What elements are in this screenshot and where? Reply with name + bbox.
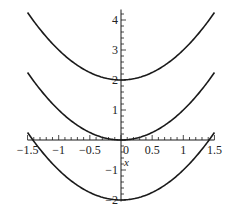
y-tick-label: 3 <box>112 43 118 57</box>
x-tick-label: −0.5 <box>79 143 101 157</box>
x-tick-label: 1.5 <box>207 143 222 157</box>
parabola-family-plot: −1.5−1−0.500.511.5−2−11234x <box>0 0 231 220</box>
x-axis-label: x <box>123 156 129 168</box>
y-tick-label: 2 <box>112 73 118 87</box>
x-tick-label: 0 <box>123 143 129 157</box>
x-tick-label: −1.5 <box>17 143 39 157</box>
y-tick-label: 4 <box>112 13 118 27</box>
axes <box>28 10 215 202</box>
y-tick-label: −1 <box>105 163 118 177</box>
y-tick-label: 1 <box>112 103 118 117</box>
y-tick-label: −2 <box>105 193 118 207</box>
x-tick-label: −1 <box>52 143 65 157</box>
x-tick-label: 1 <box>180 143 186 157</box>
x-tick-label: 0.5 <box>145 143 160 157</box>
